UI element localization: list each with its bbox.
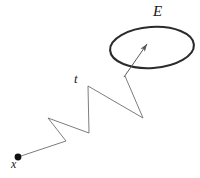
diagram-svg [0, 0, 200, 178]
time-label-t: t [74, 72, 78, 85]
region-ellipse [109, 24, 196, 71]
region-label-E: E [153, 4, 162, 19]
arrow-into-region [124, 44, 147, 77]
figure-canvas: E t x [0, 0, 200, 178]
random-walk-polyline [18, 76, 143, 157]
start-point-label-x: x [11, 158, 16, 170]
